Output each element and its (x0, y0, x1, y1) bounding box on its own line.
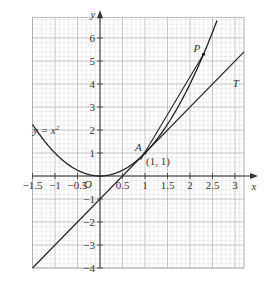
y-tick-label: 5 (90, 55, 96, 67)
x-tick-label: −1.5 (23, 179, 43, 191)
x-tick-label: 2 (187, 179, 193, 191)
y-axis-label: y (90, 8, 96, 20)
y-tick-label: −1 (83, 193, 95, 205)
x-tick-label: 1 (142, 179, 148, 191)
y-tick-label: 4 (90, 78, 96, 90)
y-tick-label: −3 (83, 239, 95, 251)
y-axis-arrow-icon (97, 10, 103, 18)
tangent-label: T (233, 77, 240, 89)
x-axis-arrow-icon (250, 173, 258, 179)
origin-label: O (84, 178, 92, 190)
x-axis-label: x (251, 180, 257, 192)
x-tick-label: 0.5 (116, 179, 130, 191)
x-tick-label: 1.5 (161, 179, 175, 191)
y-tick-label: −4 (83, 262, 95, 274)
curve-label: y = x2 (32, 124, 60, 136)
point-a-label: A (134, 141, 142, 153)
x-tick-label: 3 (232, 179, 238, 191)
point-P (202, 53, 205, 56)
x-tick-label: −1 (49, 179, 61, 191)
x-tick-label: 2.5 (206, 179, 220, 191)
y-tick-label: 2 (90, 124, 96, 136)
graph: −1.5−1−0.50.511.522.53654321−1−2−3−4Oxyy… (0, 0, 272, 284)
y-tick-label: 1 (90, 147, 96, 159)
y-tick-label: 3 (90, 101, 96, 113)
point-p-label: P (193, 42, 201, 54)
y-tick-label: 6 (90, 32, 96, 44)
point-a-coords: (1, 1) (146, 155, 170, 168)
y-tick-label: −2 (83, 216, 95, 228)
